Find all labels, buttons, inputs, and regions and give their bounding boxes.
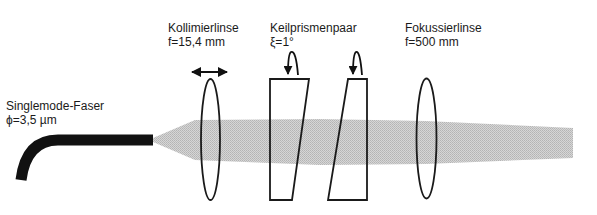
optical-setup-diagram	[0, 0, 597, 215]
rotation-arrow-1-icon	[288, 52, 298, 75]
laser-beam	[153, 119, 573, 165]
rotation-arrow-2-icon	[353, 52, 362, 75]
optical-fiber-icon	[21, 140, 153, 180]
